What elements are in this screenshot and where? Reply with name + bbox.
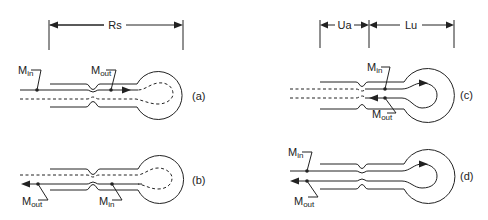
ua-label: Ua: [337, 19, 352, 31]
diagram-canvas: Rs Min Mout (a): [0, 0, 488, 220]
panel-d-label: (d): [460, 170, 473, 182]
m-in-label: Min: [18, 64, 33, 78]
flow-line-dashed: [290, 89, 365, 98]
flow-line-solid: [290, 161, 437, 189]
m-in-leader: [302, 152, 312, 171]
m-in-leader: [112, 184, 122, 200]
panel-c-label: (c): [460, 89, 473, 101]
m-out-label: Mout: [22, 195, 43, 209]
panel-b-label: (b): [192, 174, 205, 186]
panel-b: Mout Min (b): [20, 156, 205, 210]
tube-outline: [320, 150, 455, 204]
m-in-label: Min: [99, 195, 114, 209]
m-in-label: Min: [288, 146, 303, 160]
m-out-label: Mout: [91, 64, 112, 78]
m-out-leader: [385, 98, 396, 113]
m-out-label: Mout: [372, 108, 393, 122]
m-out-leader: [38, 184, 48, 200]
tube-outline: [50, 156, 184, 204]
m-out-leader: [307, 181, 318, 197]
m-in-label: Min: [367, 61, 382, 75]
tube-outline: [50, 72, 182, 120]
rs-label: Rs: [108, 19, 122, 31]
panel-d: Min Mout (d): [288, 146, 473, 209]
panel-a-label: (a): [192, 90, 205, 102]
flow-line-solid: [365, 80, 437, 109]
lu-label: Lu: [405, 19, 417, 31]
panel-c: Ua Lu Min Mout (c): [290, 19, 473, 122]
panel-a: Rs Min Mout (a): [18, 19, 205, 119]
